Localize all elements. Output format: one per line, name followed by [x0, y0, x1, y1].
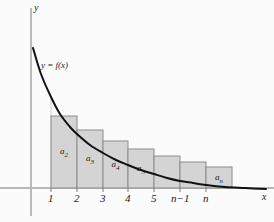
curve-label: y = f(x): [41, 60, 68, 70]
rectangle-label-subscript: 4: [116, 163, 120, 171]
rectangle-label-2: a3: [86, 153, 94, 166]
integral-test-figure: y x y = f(x) 12345n−1n a2a3a4a5an: [0, 0, 274, 222]
rectangle-label-4: a5: [137, 163, 145, 176]
x-tick-label-1: 1: [48, 192, 54, 204]
x-tick-label-5: 5: [151, 192, 157, 204]
rectangle-label-subscript: n: [220, 176, 224, 184]
rectangle-label-3: a4: [112, 159, 120, 172]
rectangle-label-7: an: [215, 172, 223, 185]
x-tick-label-4: 4: [125, 192, 131, 204]
rectangles-group: [51, 116, 232, 188]
x-tick-label-3: 3: [100, 192, 106, 204]
rectangle-5: [154, 156, 180, 188]
rectangle-label-subscript: 5: [142, 167, 146, 175]
rectangle-label-1: a2: [60, 146, 68, 159]
x-tick-label-7: n: [203, 192, 209, 204]
rectangle-label-subscript: 2: [65, 151, 69, 159]
plot-canvas: [0, 0, 274, 222]
x-axis-label: x: [262, 191, 266, 202]
x-tick-label-6: n−1: [171, 192, 189, 204]
x-tick-label-2: 2: [74, 192, 80, 204]
y-axis-label: y: [34, 2, 38, 13]
rectangle-label-subscript: 3: [91, 158, 95, 166]
